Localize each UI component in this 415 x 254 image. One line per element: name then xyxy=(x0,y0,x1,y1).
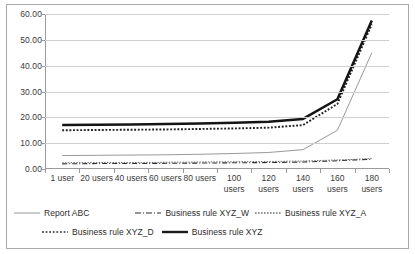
y-tick-label: 30.00 xyxy=(20,87,42,97)
x-tick-label: 160 users xyxy=(320,173,354,195)
x-tick-label: 40 users xyxy=(114,173,148,184)
x-tick-label: 1 user xyxy=(45,173,79,184)
legend-swatch-xyz xyxy=(162,227,188,237)
y-tick-label: 40.00 xyxy=(20,61,42,71)
x-tick-label: 140 users xyxy=(286,173,320,195)
y-tick-mark xyxy=(42,143,45,144)
gridline xyxy=(45,92,389,93)
legend-swatch-xyz-a xyxy=(255,208,281,218)
y-tick-mark xyxy=(42,14,45,15)
legend-item-xyz-d: Business rule XYZ_D xyxy=(42,227,154,237)
y-tick-label: 0.00 xyxy=(25,164,42,174)
x-tick-label: 120 users xyxy=(251,173,285,195)
legend-item-xyz: Business rule XYZ xyxy=(162,227,263,237)
legend-row-1: Report ABC Business rule XYZ_W Business … xyxy=(14,204,401,222)
x-axis-labels: 1 user20 users40 users60 users80 users10… xyxy=(45,173,389,203)
legend-swatch-xyz-w xyxy=(135,208,161,218)
legend-label-xyz-w: Business rule XYZ_W xyxy=(165,208,249,218)
legend-row-2: Business rule XYZ_D Business rule XYZ xyxy=(14,223,401,241)
gridline xyxy=(45,40,389,41)
gridline xyxy=(45,143,389,144)
chart-legend: Report ABC Business rule XYZ_W Business … xyxy=(14,204,401,246)
legend-label-xyz-d: Business rule XYZ_D xyxy=(72,227,154,237)
legend-swatch-xyz-d xyxy=(42,227,68,237)
y-tick-mark xyxy=(42,92,45,93)
y-tick-mark xyxy=(42,117,45,118)
series-line xyxy=(62,53,372,156)
x-tick-label: 20 users xyxy=(79,173,113,184)
chart-container: 0.0010.0020.0030.0040.0050.0060.00 1 use… xyxy=(0,0,415,254)
y-tick-mark xyxy=(42,40,45,41)
legend-label-report-abc: Report ABC xyxy=(44,208,89,218)
series-line xyxy=(62,20,372,125)
legend-item-xyz-a: Business rule XYZ_A xyxy=(255,208,366,218)
gridline xyxy=(45,66,389,67)
x-tick-label: 180 users xyxy=(355,173,389,195)
legend-label-xyz-a: Business rule XYZ_A xyxy=(285,208,366,218)
legend-item-xyz-w: Business rule XYZ_W xyxy=(135,208,249,218)
y-tick-label: 60.00 xyxy=(20,9,42,19)
gridline xyxy=(45,117,389,118)
gridline xyxy=(45,14,389,15)
y-tick-label: 10.00 xyxy=(20,138,42,148)
x-tick-label: 100 users xyxy=(217,173,251,195)
x-tick-label: 60 users xyxy=(148,173,182,184)
x-tick-mark xyxy=(389,169,390,173)
y-tick-label: 50.00 xyxy=(20,35,42,45)
y-tick-mark xyxy=(42,66,45,67)
x-tick-label: 80 users xyxy=(183,173,217,184)
legend-label-xyz: Business rule XYZ xyxy=(192,227,263,237)
y-axis: 0.0010.0020.0030.0040.0050.0060.00 xyxy=(8,14,42,169)
legend-item-report-abc: Report ABC xyxy=(14,208,89,218)
y-tick-label: 20.00 xyxy=(20,112,42,122)
legend-swatch-report-abc xyxy=(14,208,40,218)
plot-area xyxy=(45,14,389,169)
